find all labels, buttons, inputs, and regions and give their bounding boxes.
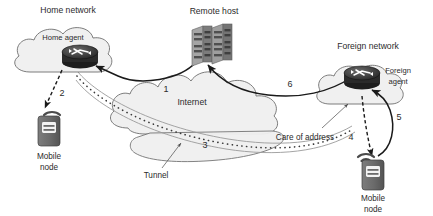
mobile-node-left-label-line1: Mobile <box>37 152 62 161</box>
home-agent-router-icon <box>62 45 98 69</box>
step-5-label: 5 <box>396 112 401 122</box>
mobile-node-left: Mobile node <box>37 112 62 172</box>
diagram-canvas: Internet Home agent Home network Foreign… <box>0 0 433 216</box>
internet-label: Internet <box>177 97 207 107</box>
path-2-home-agent-to-mobile: 2 <box>45 70 65 108</box>
mobile-node-right: Mobile node <box>358 154 386 214</box>
remote-host-label: Remote host <box>190 6 239 16</box>
remote-host-server-icon: Remote host <box>190 6 239 66</box>
mobile-ip-diagram: Internet Home agent Home network Foreign… <box>0 0 433 216</box>
home-agent-label: Home agent <box>42 33 84 42</box>
step-6-label: 6 <box>287 79 292 89</box>
tunnel-label: Tunnel <box>144 171 169 180</box>
care-of-address-callout: Care of address <box>276 104 348 142</box>
step-1-label: 1 <box>163 84 168 94</box>
mobile-node-left-label-line2: node <box>40 163 59 172</box>
foreign-agent-label-line1: Foreign <box>385 66 411 75</box>
foreign-agent-label-line2: agent <box>388 77 408 86</box>
step-3-label: 3 <box>202 140 207 150</box>
step-4-label: 4 <box>348 132 353 142</box>
mobile-node-right-label-line1: Mobile <box>361 194 386 203</box>
foreign-network-label: Foreign network <box>337 41 399 51</box>
mobile-node-right-label-line2: node <box>364 205 383 214</box>
home-network-label: Home network <box>40 5 96 15</box>
path-4-foreign-agent-to-mobile: 4 <box>348 96 372 156</box>
foreign-agent-router-icon <box>344 66 380 90</box>
step-2-label: 2 <box>59 88 64 98</box>
care-of-address-label: Care of address <box>276 133 334 142</box>
